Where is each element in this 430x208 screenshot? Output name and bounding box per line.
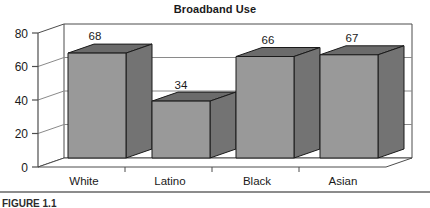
value-label-asian: 67 [346, 32, 359, 44]
figure-divider-rule [0, 191, 430, 193]
x-axis-ticks [125, 167, 299, 172]
y-tick-60: 60 [15, 60, 29, 74]
bar-black-side [294, 48, 320, 159]
figure-container: Broadband Use [0, 0, 430, 208]
y-axis-tick-labels: 80 60 40 20 0 [15, 27, 29, 175]
bar-latino-side [210, 92, 236, 158]
y-tick-0: 0 [21, 161, 28, 175]
bar-black-front [236, 57, 294, 159]
bar-white[interactable] [68, 44, 152, 158]
y-tick-80: 80 [15, 27, 29, 41]
value-label-white: 68 [89, 30, 102, 42]
figure-caption-clip: FIGURE 1.1 [0, 199, 430, 208]
bar-black[interactable] [236, 48, 320, 159]
value-label-black: 66 [262, 34, 275, 46]
bar-white-front [68, 53, 126, 158]
value-label-latino: 34 [175, 79, 188, 91]
bar-latino[interactable] [152, 92, 236, 158]
depth-connectors [38, 24, 64, 167]
y-tick-40: 40 [15, 94, 29, 108]
y-axis [32, 33, 38, 167]
bar-asian-front [320, 55, 378, 158]
figure-caption: FIGURE 1.1 [2, 199, 56, 208]
plot-floor [38, 158, 412, 167]
y-tick-20: 20 [15, 127, 29, 141]
cat-label-black: Black [243, 175, 271, 187]
cat-label-white: White [69, 175, 98, 187]
bar-white-side [126, 44, 152, 158]
cat-label-latino: Latino [154, 175, 185, 187]
bar-latino-front [152, 101, 210, 158]
bar-asian[interactable] [320, 46, 404, 158]
cat-label-asian: Asian [329, 175, 358, 187]
bar-asian-side [378, 46, 404, 158]
x-axis-category-labels: White Latino Black Asian [69, 175, 357, 187]
bar-chart-plot: 80 60 40 20 0 [0, 0, 430, 192]
